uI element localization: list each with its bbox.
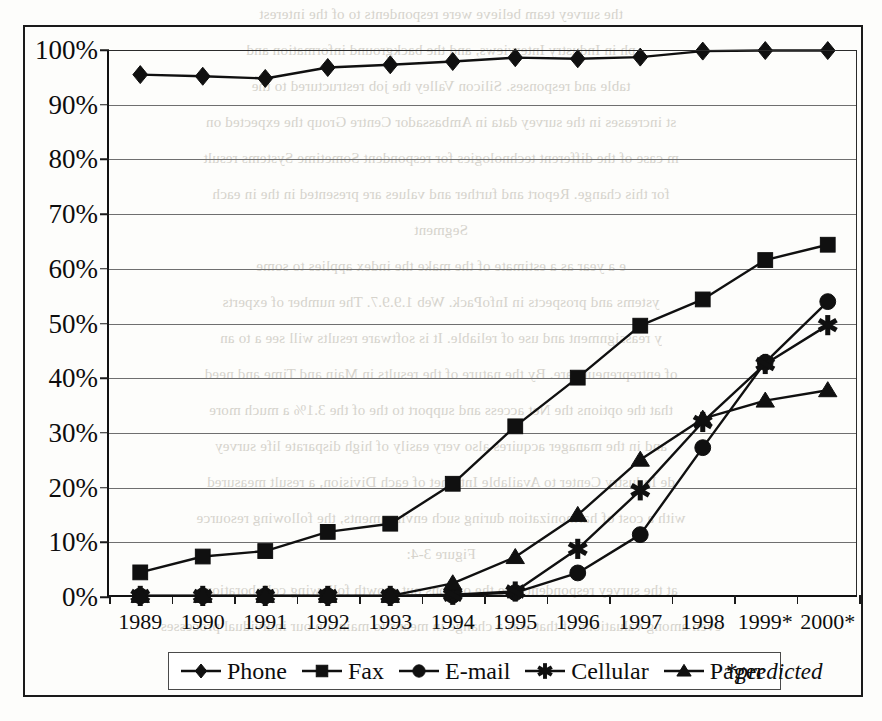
- diamond-marker-icon: [320, 59, 335, 77]
- y-axis-label: 10%: [49, 529, 99, 556]
- series-cellular: [132, 315, 837, 606]
- y-tick-mark: [100, 213, 109, 215]
- diamond-marker-icon: [133, 66, 148, 84]
- legend-item-e-mail[interactable]: E-mail: [398, 659, 510, 683]
- y-tick-mark: [100, 596, 109, 598]
- square-marker-icon: [383, 516, 398, 531]
- diamond-marker-icon: [820, 42, 835, 60]
- square-marker-icon: [445, 476, 460, 491]
- diamond-marker-icon: [195, 664, 206, 678]
- x-axis-label: 1989: [118, 611, 162, 633]
- y-axis-label: 0%: [62, 584, 98, 611]
- circle-marker-icon: [413, 665, 425, 677]
- triangle-marker-icon: [444, 575, 462, 590]
- x-axis-label: 2000*: [800, 611, 855, 633]
- legend-swatch: [301, 661, 343, 681]
- circle-marker-icon: [695, 440, 711, 456]
- x-axis-label: 1992: [306, 611, 350, 633]
- y-tick-mark: [100, 159, 109, 161]
- y-axis-label: 50%: [49, 310, 99, 337]
- y-tick-mark: [100, 49, 109, 51]
- y-axis-label: 80%: [49, 146, 99, 173]
- y-axis-label: 90%: [49, 91, 99, 118]
- diamond-marker-icon: [508, 49, 523, 67]
- x-axis-label: 1994: [431, 611, 475, 633]
- x-axis-label: 1991: [243, 611, 287, 633]
- series-line: [140, 390, 828, 596]
- diamond-marker-icon: [633, 48, 648, 66]
- y-tick-mark: [100, 432, 109, 434]
- diamond-marker-icon: [383, 56, 398, 74]
- asterisk-marker-icon: [819, 315, 836, 335]
- legend-label: Fax: [348, 659, 384, 683]
- square-marker-icon: [695, 292, 710, 307]
- series-line: [140, 325, 828, 596]
- legend-swatch: [524, 661, 566, 681]
- diamond-marker-icon: [695, 42, 710, 60]
- diamond-marker-icon: [258, 69, 273, 87]
- legend-item-cellular[interactable]: Cellular: [524, 659, 648, 683]
- square-marker-icon: [508, 419, 523, 434]
- diamond-marker-icon: [758, 42, 773, 60]
- square-marker-icon: [570, 370, 585, 385]
- legend-swatch: [398, 661, 440, 681]
- y-tick-mark: [100, 104, 109, 106]
- figure-frame: 0%10%20%30%40%50%60%70%80%90%100% 198919…: [23, 25, 863, 697]
- y-tick-mark: [100, 542, 109, 544]
- series-line: [140, 245, 828, 573]
- square-marker-icon: [758, 253, 773, 268]
- triangle-marker-icon: [819, 382, 837, 397]
- circle-marker-icon: [820, 294, 836, 310]
- series-e-mail: [132, 294, 835, 604]
- diamond-marker-icon: [195, 67, 210, 85]
- diamond-marker-icon: [445, 52, 460, 70]
- x-axis-label: 1995: [493, 611, 537, 633]
- y-tick-mark: [100, 377, 109, 379]
- y-axis-label: 20%: [49, 474, 99, 501]
- triangle-marker-icon: [631, 451, 649, 466]
- x-tick-mark: [859, 595, 861, 604]
- series-plot: [109, 50, 859, 597]
- square-marker-icon: [320, 525, 335, 540]
- x-axis-label: 1993: [368, 611, 412, 633]
- footnote-predicted: *predicted: [725, 659, 823, 685]
- diamond-marker-icon: [570, 50, 585, 68]
- circle-marker-icon: [570, 565, 586, 581]
- series-fax: [133, 237, 835, 579]
- chart-plot-area: 0%10%20%30%40%50%60%70%80%90%100% 198919…: [107, 50, 857, 597]
- square-marker-icon: [316, 665, 327, 676]
- x-axis-label: 1997: [618, 611, 662, 633]
- chart-legend: PhoneFaxE-mailCellularPager: [168, 652, 781, 690]
- showthrough-line: the survey team believe were respondents…: [0, 6, 882, 23]
- y-axis-label: 40%: [49, 365, 99, 392]
- y-axis-label: 60%: [49, 255, 99, 282]
- y-tick-mark: [100, 268, 109, 270]
- legend-swatch: [663, 661, 705, 681]
- square-marker-icon: [133, 565, 148, 580]
- square-marker-icon: [820, 237, 835, 252]
- x-axis-label: 1999*: [738, 611, 793, 633]
- x-axis-label: 1990: [181, 611, 225, 633]
- y-axis-label: 100%: [35, 37, 98, 64]
- legend-item-phone[interactable]: Phone: [180, 659, 287, 683]
- x-axis-label: 1996: [556, 611, 600, 633]
- y-axis-label: 70%: [49, 201, 99, 228]
- legend-label: Phone: [227, 659, 287, 683]
- triangle-marker-icon: [506, 549, 524, 564]
- legend-label: E-mail: [445, 659, 510, 683]
- series-pager: [131, 382, 837, 603]
- series-line: [140, 51, 828, 79]
- circle-marker-icon: [632, 527, 648, 543]
- y-axis-label: 30%: [49, 419, 99, 446]
- y-tick-mark: [100, 487, 109, 489]
- square-marker-icon: [633, 318, 648, 333]
- x-axis-label: 1998: [681, 611, 725, 633]
- legend-label: Cellular: [571, 659, 648, 683]
- series-phone: [133, 42, 835, 88]
- square-marker-icon: [258, 544, 273, 559]
- y-tick-mark: [100, 323, 109, 325]
- legend-swatch: [180, 661, 222, 681]
- square-marker-icon: [195, 549, 210, 564]
- plot-box: 0%10%20%30%40%50%60%70%80%90%100% 198919…: [107, 50, 857, 597]
- legend-item-fax[interactable]: Fax: [301, 659, 384, 683]
